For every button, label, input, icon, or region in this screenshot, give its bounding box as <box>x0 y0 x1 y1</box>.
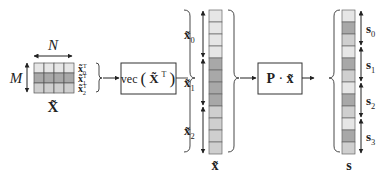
p-label: P <box>266 71 275 86</box>
matrix-label: X̃ <box>48 99 59 115</box>
x-vector-cell <box>209 118 222 130</box>
x-vector-cell <box>209 106 222 118</box>
matrix-cell <box>34 63 44 73</box>
matrix-x-tilde: N M X̃ x̃T0x̃T1x̃T2 <box>9 37 102 115</box>
s-vector-cell <box>342 94 355 106</box>
matrix-cell <box>54 83 64 93</box>
s-vector-cell <box>342 34 355 46</box>
s-vector-cell <box>342 106 355 118</box>
matrix-cell <box>54 63 64 73</box>
s-vector-cell <box>342 130 355 142</box>
matrix-cell <box>34 83 44 93</box>
x-vector-cell <box>209 46 222 58</box>
s-vector-cell <box>342 70 355 82</box>
x-vector-cell <box>209 70 222 82</box>
s-vector-cell <box>342 118 355 130</box>
matrix-cell <box>64 73 74 83</box>
vec-label-sup: T <box>162 70 167 79</box>
vec-box: vec ( X̃ T ) <box>121 63 176 94</box>
x-vector-cell <box>209 58 222 70</box>
x-vector-cell <box>209 142 222 154</box>
matrix-cell <box>54 73 64 83</box>
s-vector-cell <box>342 22 355 34</box>
s-vector-cell <box>342 82 355 94</box>
s-vector: s0s1s2s3 s <box>342 10 375 173</box>
x-vector-cell <box>209 94 222 106</box>
s-segment-label: s1 <box>366 57 375 75</box>
dot-label: · <box>278 71 283 86</box>
permutation-diagram: N M X̃ x̃T0x̃T1x̃T2 vec ( X̃ T ) x̃0x̃1x… <box>0 0 385 183</box>
p-box: P · x̃ <box>258 63 302 94</box>
s-brace <box>329 10 340 152</box>
matrix-cell <box>44 73 54 83</box>
x-vector-cell <box>209 10 222 22</box>
x-vector-cells <box>209 10 222 154</box>
width-label: N <box>47 37 59 53</box>
matrix-cell <box>44 83 54 93</box>
s-segment-label: s0 <box>366 21 375 39</box>
matrix-cell <box>44 63 54 73</box>
x-vector-cell <box>209 130 222 142</box>
s-vector-cell <box>342 142 355 154</box>
height-label: M <box>9 70 24 86</box>
vec-label-base: X̃ <box>149 71 159 86</box>
matrix-row-labels: x̃T0x̃T1x̃T2 <box>78 63 87 97</box>
matrix-cells <box>34 63 74 93</box>
x-segment-label: x̃0 <box>184 27 195 45</box>
x-vector-cell <box>209 34 222 46</box>
matrix-cell <box>34 73 44 83</box>
x-vector-cell <box>209 22 222 34</box>
vec-label-prefix: vec <box>121 72 138 86</box>
s-segment-label: s3 <box>366 129 375 147</box>
s-vector-cell <box>342 10 355 22</box>
svg-text:P · x̃: P · x̃ <box>266 71 293 86</box>
matrix-row-label: x̃T2 <box>78 83 87 97</box>
x-vector-cell <box>209 82 222 94</box>
s-vector-label: s <box>346 158 352 173</box>
s-segment-label: s2 <box>366 93 375 111</box>
s-vector-cell <box>342 46 355 58</box>
x-to-p-brace <box>228 10 239 152</box>
x-segment-label: x̃2 <box>184 123 195 141</box>
x-vector-label: x̃ <box>212 158 219 173</box>
x-label: x̃ <box>287 71 294 86</box>
matrix-cell <box>64 63 74 73</box>
matrix-cell <box>64 83 74 93</box>
s-vector-cell <box>342 58 355 70</box>
s-vector-cells <box>342 10 355 154</box>
s-vector-segments: s0s1s2s3 <box>361 11 375 153</box>
x-vector-segments: x̃0x̃1x̃2 <box>184 11 203 153</box>
matrix-brace <box>96 63 102 92</box>
